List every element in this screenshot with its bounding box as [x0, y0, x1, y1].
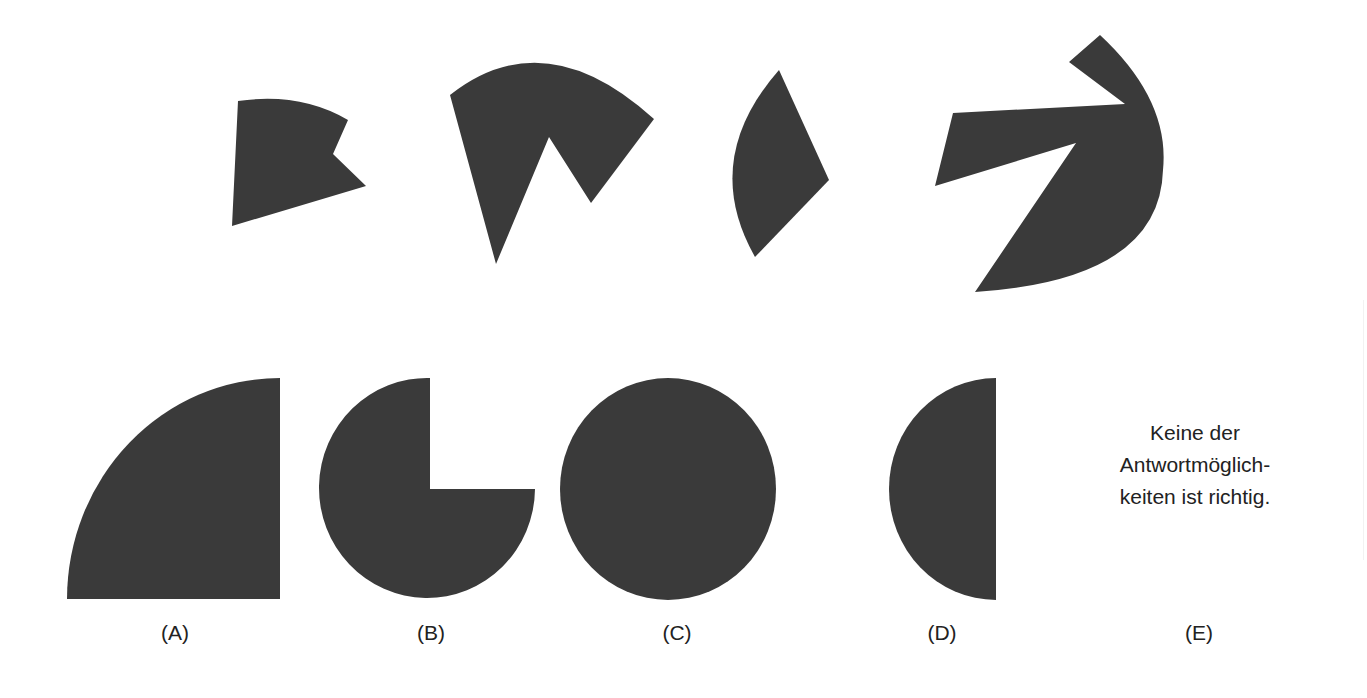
option-e-line-2: Antwortmöglich- — [1120, 449, 1271, 481]
option-d-label[interactable]: (D) — [927, 621, 956, 645]
options-row — [67, 378, 996, 600]
page-edge-line — [1363, 300, 1364, 560]
option-c-label[interactable]: (C) — [662, 621, 691, 645]
option-b-label[interactable]: (B) — [417, 621, 445, 645]
pieces-row — [232, 35, 1164, 292]
piece-1-shape — [232, 99, 366, 226]
figure-canvas — [0, 0, 1367, 698]
piece-2-shape — [450, 63, 654, 264]
option-c-shape — [560, 378, 776, 600]
piece-3-shape — [732, 70, 829, 257]
piece-4-shape — [935, 35, 1164, 292]
option-e-label[interactable]: (E) — [1185, 621, 1213, 645]
option-b-shape — [319, 378, 535, 598]
option-e-text: Keine der Antwortmöglich- keiten ist ric… — [1120, 417, 1271, 513]
option-e-line-3: keiten ist richtig. — [1120, 481, 1271, 513]
option-a-shape — [67, 378, 280, 599]
option-d-shape — [889, 378, 996, 600]
option-e-line-1: Keine der — [1120, 417, 1271, 449]
option-a-label[interactable]: (A) — [161, 621, 189, 645]
